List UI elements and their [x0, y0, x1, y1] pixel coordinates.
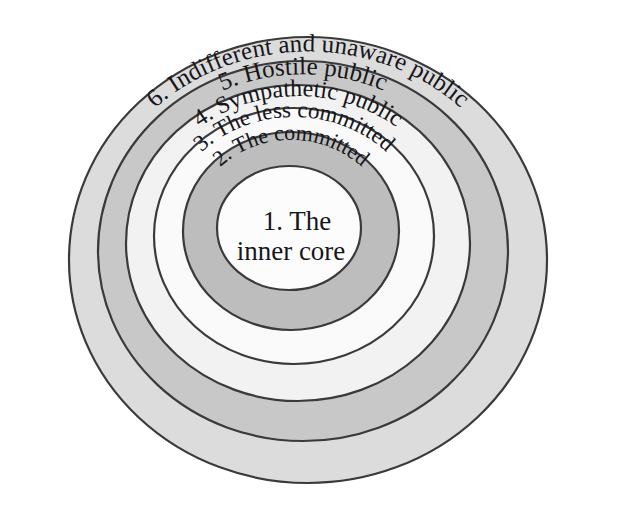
core-label-line-2: inner core [237, 236, 346, 266]
core-label-line-1: 1. The [263, 206, 332, 236]
rings-svg: 6. Indifferent and unaware public 5. Hos… [0, 0, 624, 516]
concentric-circles-diagram: 6. Indifferent and unaware public 5. Hos… [0, 0, 624, 516]
